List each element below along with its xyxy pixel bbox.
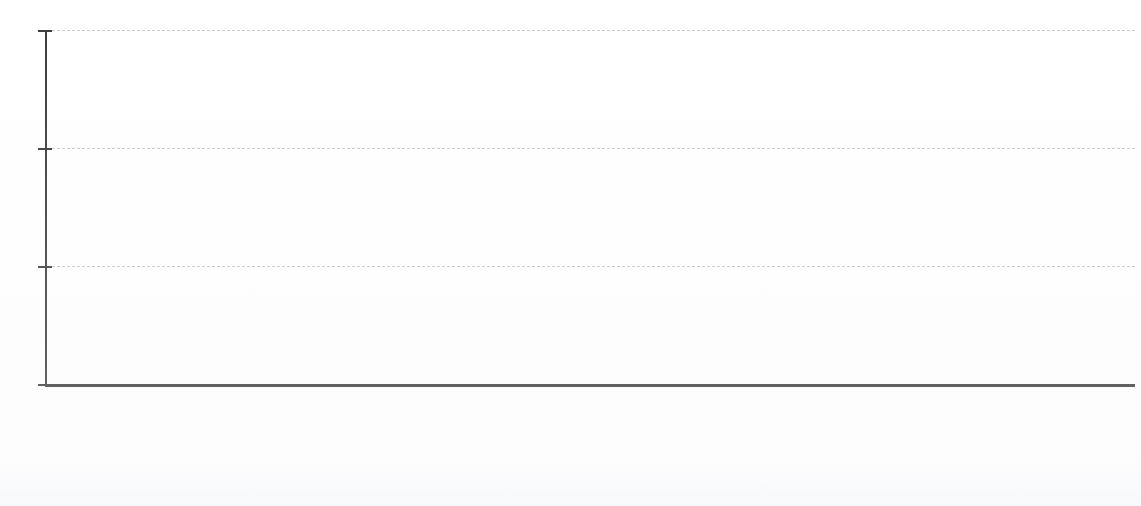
bars-layer xyxy=(0,0,1141,506)
bar-chart xyxy=(0,0,1141,506)
